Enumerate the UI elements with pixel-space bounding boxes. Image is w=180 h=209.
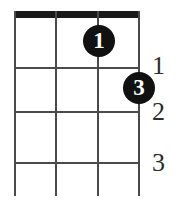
fret-line-3 xyxy=(14,162,140,164)
fret-line-1 xyxy=(14,67,140,69)
fret-number-1: 1 xyxy=(152,53,176,79)
fret-line-2 xyxy=(14,111,140,113)
nut-bar xyxy=(14,11,140,18)
fret-number-3: 3 xyxy=(152,150,176,176)
fret-number-2: 2 xyxy=(152,99,176,125)
string-line-1 xyxy=(14,11,16,196)
string-line-2 xyxy=(55,11,57,196)
finger-dot-2: 3 xyxy=(123,72,155,104)
chord-diagram: 1 3 1 2 3 xyxy=(0,0,180,209)
finger-dot-1: 1 xyxy=(83,25,115,57)
